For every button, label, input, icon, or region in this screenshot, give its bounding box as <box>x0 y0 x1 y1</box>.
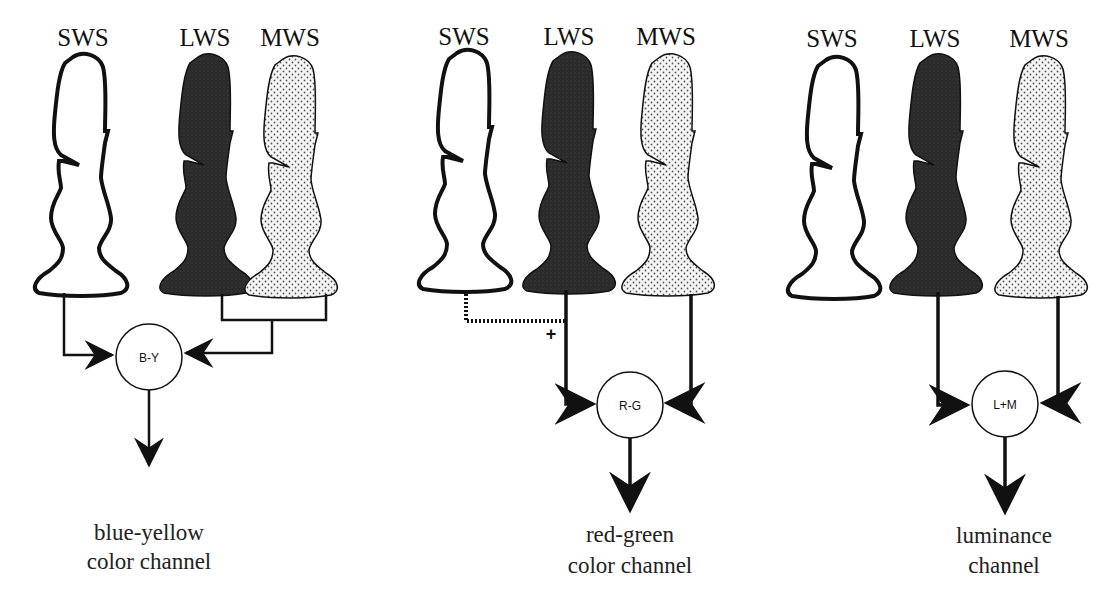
sws-cone-shape <box>788 57 880 299</box>
by-node-label: B-Y <box>139 351 159 365</box>
sws-cone-shape <box>419 50 511 292</box>
sws-cone-shape <box>35 54 127 296</box>
rg-node-label: R-G <box>619 399 641 413</box>
lws-to-lm-connector <box>938 292 967 405</box>
cone-label-mws: MWS <box>260 24 320 51</box>
lws-to-rg-connector <box>566 290 593 404</box>
lws-cone-shape <box>890 54 982 296</box>
mws-to-rg-connector <box>667 294 691 403</box>
cone-label-lws: LWS <box>910 25 961 52</box>
cone-label-lws: LWS <box>544 23 595 50</box>
cone-label-lws: LWS <box>180 24 231 51</box>
cone-label-mws: MWS <box>636 23 696 50</box>
mws-cone-shape <box>245 56 337 298</box>
group-blue-yellow: SWS LWS MWS B-Y blue-yellow color channe… <box>35 24 337 574</box>
group-luminance: SWS LWS MWS L+M luminance channel <box>788 25 1087 578</box>
lm-node-label: L+M <box>993 398 1017 412</box>
channel-label-line2: channel <box>968 553 1040 578</box>
plus-sign: + <box>546 324 557 344</box>
lws-cone-shape <box>160 54 252 296</box>
lm-to-by-connector <box>186 320 272 353</box>
cone-label-sws: SWS <box>806 25 857 52</box>
mws-cone-shape <box>622 54 714 296</box>
cone-label-sws: SWS <box>438 23 489 50</box>
cone-label-mws: MWS <box>1009 25 1069 52</box>
group-red-green: SWS LWS MWS + R-G red-green color channe… <box>419 23 714 578</box>
cone-opponent-diagram: SWS LWS MWS B-Y blue-yellow color channe… <box>0 0 1110 598</box>
lws-cone-shape <box>523 52 615 294</box>
mws-cone-shape <box>995 56 1087 298</box>
channel-label-line2: color channel <box>568 553 693 578</box>
sws-dotted-connector <box>466 290 566 321</box>
channel-label-line1: blue-yellow <box>94 520 204 545</box>
sws-to-by-connector <box>64 293 112 355</box>
cone-label-sws: SWS <box>57 24 108 51</box>
channel-label-line2: color channel <box>87 549 212 574</box>
channel-label-line1: luminance <box>956 523 1052 548</box>
channel-label-line1: red-green <box>586 522 675 547</box>
mws-to-lm-connector <box>1043 296 1058 403</box>
